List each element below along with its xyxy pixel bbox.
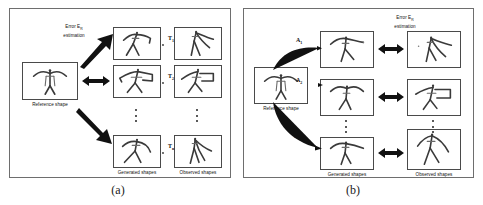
reference-shape-figure-a [23, 63, 77, 99]
curve-reference-to-generated-1-b [272, 45, 324, 71]
arrow-generated-observed-b-2 [378, 91, 404, 103]
generated-shape-box-b-n[interactable] [320, 137, 374, 170]
generated-shape-figure-b-n [321, 138, 373, 169]
error-estimation-subscript-b: R [411, 18, 414, 22]
transform-connector-a-2 [162, 80, 174, 86]
observed-shape-figure-b-1 [408, 32, 460, 67]
ellipsis-generated-b [345, 120, 348, 133]
observed-shape-figure-a-n [175, 136, 221, 167]
generated-shape-figure-a-2 [114, 66, 160, 97]
ellipsis-observed-a [196, 109, 199, 122]
error-estimation-label-b: Error ER estimation [377, 15, 433, 29]
generated-shapes-label-b: Generated shapes [313, 172, 381, 178]
arrow-generated-observed-b-1 [378, 43, 404, 55]
generated-shape-box-b-2[interactable] [320, 79, 374, 116]
transform-connector-a-n [162, 150, 174, 156]
arrow-reference-to-generated-n-a [76, 107, 116, 145]
arrow-reference-to-generated-2-a [82, 75, 110, 87]
ellipsis-observed-b [432, 120, 435, 133]
curve-reference-to-generated-2-b [290, 82, 324, 88]
error-estimation-line1: Error E [65, 24, 80, 29]
observed-shape-box-a-2[interactable] [174, 65, 222, 98]
observed-shapes-label-b: Observed shapes [400, 172, 468, 178]
generated-shape-figure-a-1 [114, 28, 160, 59]
error-estimation-line2-b: estimation [394, 24, 415, 29]
observed-shape-box-b-1[interactable] [407, 31, 461, 68]
panel-b: Error ER estimation Reference shape [243, 8, 474, 178]
reference-shape-box-a[interactable] [22, 62, 78, 100]
observed-shapes-label-a: Observed shapes [164, 170, 232, 176]
generated-shape-figure-b-1 [321, 32, 373, 67]
observed-shape-figure-a-2 [175, 66, 221, 97]
observed-shape-box-a-1[interactable] [174, 27, 222, 60]
generated-shape-box-b-1[interactable] [320, 31, 374, 68]
error-estimation-subscript: R [80, 27, 83, 31]
generated-shape-box-a-2[interactable] [113, 65, 161, 98]
transform-connector-a-1 [162, 42, 174, 48]
transform-label-b-1: A1 [296, 37, 302, 45]
generated-shape-figure-b-2 [321, 80, 373, 115]
observed-shape-figure-a-1 [175, 28, 221, 59]
generated-shape-box-a-1[interactable] [113, 27, 161, 60]
observed-shape-box-b-n[interactable] [407, 129, 461, 170]
generated-shape-figure-a-n [114, 136, 160, 167]
generated-shape-box-a-n[interactable] [113, 135, 161, 168]
reference-shape-label-a: Reference shape [16, 102, 84, 108]
generated-shapes-label-a: Generated shapes [103, 170, 171, 176]
observed-shape-box-b-2[interactable] [407, 79, 461, 116]
curve-reference-to-generated-n-b [270, 101, 324, 153]
observed-shape-figure-b-n [408, 130, 460, 169]
observed-shape-box-a-n[interactable] [174, 135, 222, 168]
arrow-generated-observed-b-n [378, 147, 404, 159]
error-estimation-line1-b: Error E [396, 15, 411, 20]
observed-shape-figure-b-2 [408, 80, 460, 115]
panel-a: Error ER estimation Reference shape [9, 8, 231, 178]
ellipsis-generated-a [135, 109, 138, 122]
figure-root: Error ER estimation Reference shape [0, 0, 483, 205]
arrow-reference-to-generated-1-a [76, 33, 116, 69]
caption-b: (b) [333, 183, 373, 198]
caption-a: (a) [98, 183, 138, 198]
